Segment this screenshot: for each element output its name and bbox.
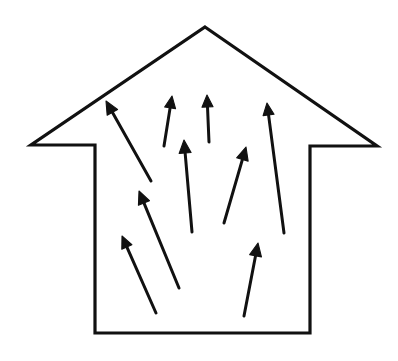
figure-root: Line drawing of a house-shaped outline c… <box>0 0 398 361</box>
arrow-top-center-vertical-shaft <box>207 105 209 142</box>
house-airflow-diagram <box>0 0 398 361</box>
